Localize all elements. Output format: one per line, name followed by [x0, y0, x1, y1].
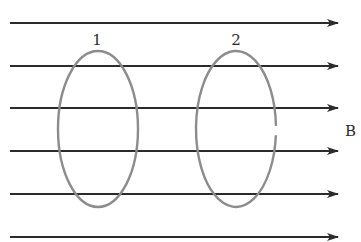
loop-1-ellipse	[58, 51, 138, 207]
diagram-svg: 1 2 B	[0, 0, 361, 242]
loop-1	[58, 51, 138, 207]
field-label-b: B	[345, 122, 356, 140]
loop-1-label: 1	[92, 31, 102, 49]
loop-2-label: 2	[231, 31, 241, 49]
loop-2	[196, 51, 276, 207]
loop-2-open-ellipse	[196, 51, 276, 207]
diagram-canvas: 1 2 B	[0, 0, 361, 242]
